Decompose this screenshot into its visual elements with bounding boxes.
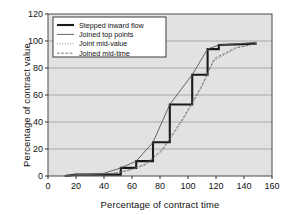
y-tick-label: 120: [28, 9, 43, 19]
y-tick-label: 0: [38, 171, 43, 181]
x-tick-label: 40: [99, 181, 109, 191]
chart-svg: 020406080100120140160020406080100120 Ste…: [0, 0, 285, 215]
x-tick-label: 140: [236, 181, 251, 191]
legend-label-3: Joined mid-time: [79, 49, 130, 58]
x-tick-label: 0: [45, 181, 50, 191]
legend-label-1: Joined top points: [79, 30, 134, 39]
y-tick-label: 20: [33, 144, 43, 154]
x-tick-label: 60: [127, 181, 137, 191]
y-axis-label: Percentage of contract value: [16, 20, 34, 190]
legend-label-0: Stepped inward flow: [79, 21, 145, 30]
x-tick-label: 80: [155, 181, 165, 191]
chart-legend: Stepped inward flowJoined top pointsJoin…: [53, 17, 166, 58]
x-axis-label: Percentage of contract time: [48, 194, 272, 212]
x-tick-label: 100: [180, 181, 195, 191]
chart-container: 020406080100120140160020406080100120 Ste…: [0, 0, 285, 215]
legend-label-2: Joint mid-value: [79, 39, 127, 48]
x-axis-label-text: Percentage of contract time: [101, 199, 220, 210]
y-axis-label-text: Percentage of contract value: [21, 43, 32, 167]
y-tick-label: 80: [33, 63, 43, 73]
y-tick-label: 40: [33, 117, 43, 127]
x-tick-label: 20: [71, 181, 81, 191]
x-tick-label: 120: [208, 181, 223, 191]
x-tick-label: 160: [264, 181, 279, 191]
y-tick-label: 60: [33, 90, 43, 100]
